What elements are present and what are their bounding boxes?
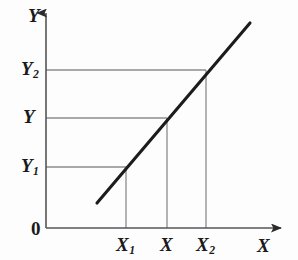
y-tick-label-y2: Y2 bbox=[21, 59, 39, 78]
y-axis-label: Y bbox=[28, 6, 40, 25]
graph-figure: Y X 0 Y1 Y Y2 X1 X X2 bbox=[0, 0, 298, 260]
vertical-guide-lines bbox=[126, 70, 206, 228]
x-tick-label-x1: X1 bbox=[116, 235, 135, 254]
graph-canvas bbox=[0, 0, 298, 260]
y-tick-label-y1: Y1 bbox=[21, 156, 39, 175]
x-axis-label: X bbox=[257, 236, 270, 255]
horizontal-guide-lines bbox=[46, 70, 206, 167]
origin-label: 0 bbox=[31, 219, 41, 238]
x-tick-label-x2: X2 bbox=[196, 235, 215, 254]
data-line bbox=[97, 23, 250, 203]
x-tick-label-x: X bbox=[160, 235, 173, 254]
y-tick-label-y: Y bbox=[23, 107, 35, 126]
